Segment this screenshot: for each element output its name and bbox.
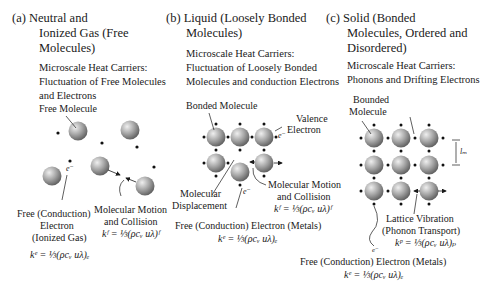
free-electron-label-line3: (Ionized Gas): [32, 232, 87, 244]
liquid-electron-equation: kᵉ = ⅓(ρcᵥ uλ)ₑ: [218, 233, 277, 245]
free-molecule-label: Free Molecule: [39, 103, 97, 115]
liquid-free-electron-label: Free (Conduction) Electron (Metals): [175, 220, 321, 232]
panel-a-title-line2: Ionized Gas (Free: [39, 26, 129, 40]
panel-b-title-line1: (b) Liquid (Loosely Bonded: [166, 11, 307, 25]
panel-b-carriers-line1: Microscale Heat Carriers:: [186, 47, 294, 61]
liquid-motion-label-line1: Molecular Motion: [268, 179, 341, 191]
solid-free-electron-label: Free (Conduction) Electron (Metals): [300, 256, 446, 268]
lattice-vibration-label-line1: Lattice Vibration: [386, 213, 454, 225]
panel-c-carriers-line1: Microscale Heat Carriers:: [347, 59, 455, 73]
bounded-molecule-label-line2: Molecule: [349, 106, 387, 118]
molecular-motion-label-line2: and Collision: [104, 216, 158, 228]
liquid-fluid-equation: kᶠ = ⅓(ρcᵥ uλ)ᶠ: [274, 203, 332, 215]
free-electron-label-line2: Electron: [40, 220, 74, 232]
panel-c-title-line2: Molecules, Ordered and: [347, 26, 467, 40]
lattice-vibration-label-line2: (Phonon Transport): [382, 225, 460, 237]
panel-a-title-line3: Molecules): [39, 41, 95, 55]
lattice-spacing-label: lₘ: [460, 147, 467, 156]
panel-b-carriers-line2: Fluctuation of Loosely Bonded: [186, 61, 317, 75]
valence-label-line2: Electron: [287, 124, 321, 136]
panel-b-title-line2: Molecules): [186, 26, 242, 40]
bonded-molecule-label: Bonded Molecule: [186, 100, 257, 112]
panel-a-carriers-line1: Microscale Heat Carriers:: [39, 61, 147, 75]
displacement-label-line2: Displacement: [172, 200, 227, 212]
electron-conductivity-equation: kᵉ = ⅓(ρcᵥ uλ)ₑ: [30, 249, 89, 261]
solid-electron-symbol: e⁻: [372, 246, 379, 254]
phonon-conductivity-equation: kᵖ = ⅓(ρcᵥ uλ)ₚ: [395, 237, 456, 249]
free-electron-label-line1: Free (Conduction): [17, 208, 91, 220]
fluid-conductivity-equation: kᶠ = ⅓(ρcᵥ uλ)ᶠ: [102, 228, 160, 240]
panel-a-carriers-line2: Fluctuation of Free Molecules: [39, 75, 166, 89]
electron-symbol: e⁻: [66, 164, 74, 173]
panel-a-molecules: [43, 116, 156, 200]
bounded-molecule-label-line1: Bounded: [353, 94, 389, 106]
panel-b-carriers-line3: Molecules and conduction Electrons: [186, 75, 339, 89]
liquid-motion-label-line2: and Collision: [277, 191, 331, 203]
valence-label-line1: Valence: [296, 113, 328, 125]
panel-c-title-line3: Disordered): [347, 41, 407, 55]
molecular-motion-label-line1: Molecular Motion: [94, 204, 167, 216]
solid-electron-equation: kᵉ = ⅓(ρcᵥ uλ)ₑ: [344, 269, 403, 281]
panel-a-title-line1: (a) Neutral and: [12, 11, 88, 25]
valence-electron-symbol: e⁻: [278, 131, 286, 140]
free-electron-symbol: e⁻: [243, 187, 251, 196]
panel-c-carriers-line2: Phonons and Drifting Electrons: [347, 73, 480, 87]
panel-c-title-line1: (c) Solid (Bonded: [326, 11, 416, 25]
panel-a-carriers-line3: and Electrons: [39, 89, 96, 103]
displacement-label-line1: Molecular: [180, 188, 221, 200]
